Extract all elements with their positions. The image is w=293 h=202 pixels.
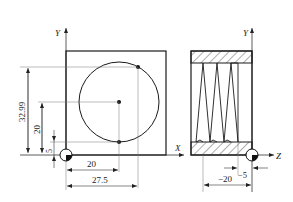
drawing-canvas: Y X 32.99 20 5 20 — [0, 0, 293, 202]
left-view: Y X 32.99 20 5 20 — [17, 28, 184, 190]
section-hatch-bottom — [191, 142, 252, 155]
right-view: Y Z −5 −20 — [191, 28, 282, 192]
dim-neg5-text: −5 — [238, 170, 247, 180]
dim-5-text: 5 — [45, 149, 54, 153]
tool-origin-icon — [60, 149, 72, 161]
helical-toolpath — [196, 63, 238, 142]
y-axis-right-label: Y — [243, 28, 249, 38]
y-axis-left-label: Y — [55, 28, 61, 38]
tool-origin-right-icon — [246, 149, 258, 161]
dim-20v-text: 20 — [32, 125, 42, 135]
x-axis-label: X — [174, 143, 181, 153]
dim-20h-text: 20 — [87, 159, 97, 169]
dim-neg20-text: −20 — [218, 174, 233, 184]
dim-32-99-text: 32.99 — [17, 101, 27, 122]
section-outline — [191, 51, 252, 155]
workpiece-outline — [66, 51, 166, 155]
dim-27-5-text: 27.5 — [92, 175, 108, 185]
section-hatch-top — [191, 51, 252, 63]
z-axis-label: Z — [276, 151, 282, 161]
